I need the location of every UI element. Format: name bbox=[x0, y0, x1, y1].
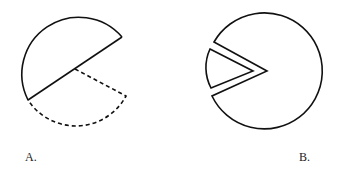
figure-b-label: B. bbox=[299, 150, 310, 165]
figure-a-label: A. bbox=[25, 150, 37, 165]
figure-b-wedge bbox=[206, 49, 253, 88]
figure-a-solid-arc bbox=[22, 17, 122, 100]
figure-a-chord bbox=[28, 37, 122, 100]
figure-b bbox=[206, 13, 322, 129]
figure-a-dashed-sector bbox=[28, 69, 126, 126]
figure-b-notched-circle bbox=[212, 13, 322, 129]
figure-a bbox=[22, 17, 126, 126]
diagram-canvas bbox=[0, 0, 344, 174]
